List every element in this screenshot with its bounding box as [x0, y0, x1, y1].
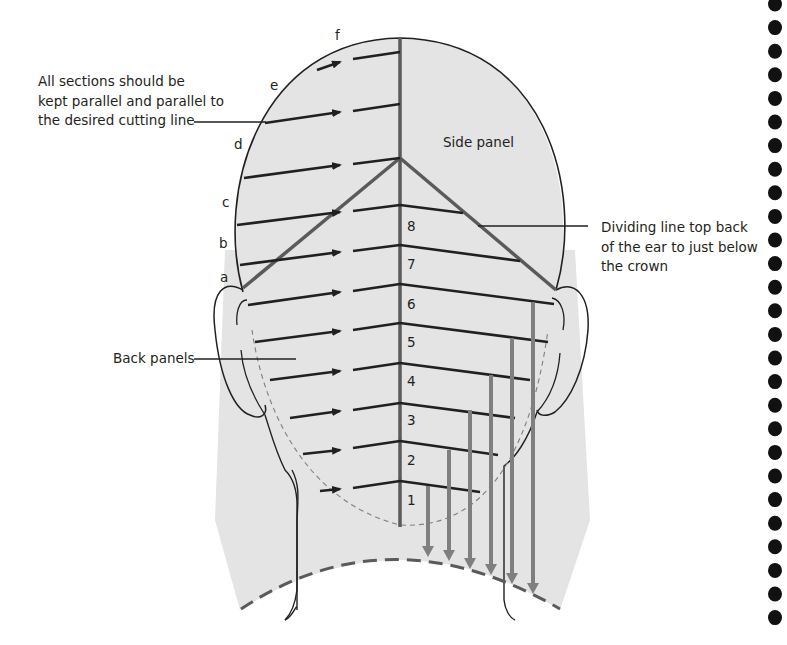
binding-dot	[768, 233, 782, 248]
section-letter-f: f	[335, 27, 341, 43]
sections-note-line-2: kept parallel and parallel to	[38, 93, 224, 109]
section-number-8: 8	[407, 218, 416, 234]
dividing-line-label-3: the crown	[601, 258, 668, 274]
section-number-1: 1	[407, 492, 416, 508]
binding-dot	[768, 374, 782, 389]
binding-dot	[768, 185, 782, 200]
binding-dot	[768, 303, 782, 318]
section-letter-c: c	[222, 194, 229, 210]
section-number-4: 4	[407, 373, 416, 389]
binding-dot	[768, 469, 782, 484]
hair-sectioning-diagram: All sections should be kept parallel and…	[0, 0, 787, 645]
section-letter-b: b	[219, 235, 228, 251]
section-letter-e: e	[270, 77, 278, 93]
binding-dot	[768, 138, 782, 153]
section-letter-a: a	[220, 269, 228, 285]
binding-dot	[768, 162, 782, 177]
binding-dot	[768, 421, 782, 436]
binding-dot	[768, 44, 782, 59]
binding-dot	[768, 610, 782, 625]
section-number-6: 6	[407, 296, 416, 312]
section-number-3: 3	[407, 412, 416, 428]
binding-dot	[768, 20, 782, 35]
binding-dot	[768, 209, 782, 224]
binding-dot	[768, 91, 782, 106]
binding-dot	[768, 256, 782, 271]
binding-dot	[768, 280, 782, 295]
sections-note-line-1: All sections should be	[38, 73, 185, 89]
binding-dot	[768, 115, 782, 130]
binding-dot	[768, 445, 782, 460]
binding-dot	[768, 587, 782, 602]
sections-note-line-3: the desired cutting line	[38, 112, 195, 128]
binding-dot	[768, 398, 782, 413]
section-letter-d: d	[234, 136, 243, 152]
binding-dot	[768, 0, 782, 12]
binding-dot	[768, 67, 782, 82]
back-panels-label: Back panels	[113, 350, 195, 366]
dividing-line-label-1: Dividing line top back	[601, 219, 748, 235]
binding-dot	[768, 327, 782, 342]
side-panel-label: Side panel	[443, 134, 514, 150]
dividing-line-label-2: of the ear to just below	[601, 239, 758, 255]
binding-dot	[768, 539, 782, 554]
binding-dot	[768, 351, 782, 366]
binding-dot	[768, 516, 782, 531]
binding-dots	[768, 0, 782, 625]
section-number-2: 2	[407, 452, 416, 468]
section-number-5: 5	[407, 334, 416, 350]
binding-dot	[768, 492, 782, 507]
binding-dot	[768, 563, 782, 578]
section-number-7: 7	[407, 256, 416, 272]
